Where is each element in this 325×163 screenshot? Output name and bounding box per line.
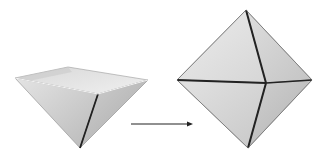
octahedron: [177, 10, 312, 148]
diagram-canvas: [0, 0, 325, 163]
open-inverted-pyramid: [15, 67, 148, 148]
right-arrow: [131, 122, 193, 127]
